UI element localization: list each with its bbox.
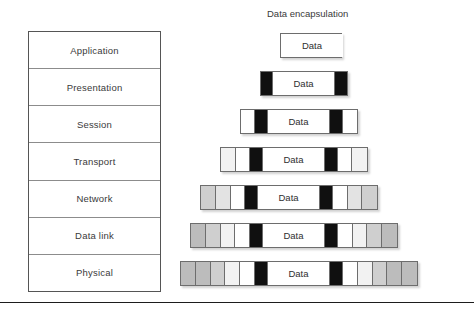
- protocol-header-segment: [335, 72, 347, 95]
- encapsulation-segment: [343, 110, 357, 133]
- data-payload-label: Data: [302, 40, 322, 51]
- encapsulation-row: Data: [200, 185, 378, 210]
- encapsulation-row: Data: [260, 71, 348, 96]
- osi-layer-label: Application: [70, 45, 119, 56]
- encapsulation-segment: [382, 224, 397, 247]
- osi-layer-row: Physical: [29, 255, 160, 291]
- protocol-header-segment: [250, 148, 263, 171]
- protocol-header-segment: [250, 224, 263, 247]
- data-payload-cell: Data: [258, 186, 320, 209]
- protocol-header-segment: [325, 224, 338, 247]
- protocol-header-segment: [320, 186, 333, 209]
- encapsulation-segment: [362, 186, 377, 209]
- encapsulation-row: Data: [280, 33, 342, 58]
- data-payload-label: Data: [288, 268, 308, 279]
- encapsulation-row: Data: [220, 147, 368, 172]
- osi-layer-row: Presentation: [29, 69, 160, 106]
- encapsulation-segment: [206, 224, 221, 247]
- osi-layer-label: Transport: [73, 156, 115, 167]
- encapsulation-segment: [338, 148, 353, 171]
- encapsulation-segment: [231, 186, 246, 209]
- encapsulation-segment: [225, 262, 240, 285]
- protocol-header-segment: [330, 110, 343, 133]
- osi-layer-row: Transport: [29, 143, 160, 180]
- encapsulation-segment: [221, 224, 236, 247]
- osi-layer-table: ApplicationPresentationSessionTransportN…: [28, 31, 161, 292]
- encapsulation-title: Data encapsulation: [267, 8, 348, 19]
- osi-layer-row: Session: [29, 106, 160, 143]
- protocol-header-segment: [255, 110, 268, 133]
- osi-layer-label: Presentation: [67, 82, 123, 93]
- encapsulation-segment: [211, 262, 226, 285]
- encapsulation-segment: [352, 148, 367, 171]
- osi-layer-row: Application: [29, 32, 160, 69]
- protocol-header-segment: [261, 72, 273, 95]
- data-payload-cell: Data: [268, 110, 330, 133]
- protocol-header-segment: [325, 148, 338, 171]
- osi-layer-label: Network: [76, 193, 112, 204]
- encapsulation-segment: [191, 224, 206, 247]
- encapsulation-segment: [181, 262, 196, 285]
- data-payload-label: Data: [294, 78, 314, 89]
- encapsulation-stack: DataDataDataDataDataDataData: [180, 33, 470, 295]
- encapsulation-segment: [373, 262, 388, 285]
- data-payload-cell: Data: [263, 224, 325, 247]
- encapsulation-segment: [201, 186, 216, 209]
- encapsulation-segment: [402, 262, 417, 285]
- data-payload-label: Data: [288, 116, 308, 127]
- encapsulation-segment: [235, 224, 250, 247]
- encapsulation-segment: [358, 262, 373, 285]
- encapsulation-segment: [221, 148, 236, 171]
- encapsulation-segment: [241, 110, 255, 133]
- encapsulation-segment: [333, 186, 348, 209]
- encapsulation-segment: [240, 262, 255, 285]
- encapsulation-segment: [367, 224, 382, 247]
- encapsulation-segment: [348, 186, 363, 209]
- osi-layer-row: Data link: [29, 218, 160, 255]
- encapsulation-row: Data: [240, 109, 358, 134]
- encapsulation-segment: [353, 224, 368, 247]
- encapsulation-segment: [216, 186, 231, 209]
- osi-layer-label: Physical: [76, 267, 113, 278]
- footer-rule: [0, 302, 474, 303]
- osi-layer-label: Data link: [75, 230, 114, 241]
- protocol-header-segment: [330, 262, 343, 285]
- protocol-header-segment: [245, 186, 258, 209]
- data-payload-cell: Data: [273, 72, 335, 95]
- osi-layer-row: Network: [29, 181, 160, 218]
- protocol-header-segment: [255, 262, 268, 285]
- data-payload-cell: Data: [263, 148, 325, 171]
- encapsulation-segment: [196, 262, 211, 285]
- encapsulation-segment: [343, 262, 358, 285]
- data-payload-label: Data: [283, 230, 303, 241]
- data-payload-label: Data: [278, 192, 298, 203]
- encapsulation-segment: [387, 262, 402, 285]
- encapsulation-row: Data: [180, 261, 418, 286]
- data-payload-label: Data: [283, 154, 303, 165]
- encapsulation-segment: [338, 224, 353, 247]
- data-payload-cell: Data: [281, 34, 343, 57]
- encapsulation-segment: [236, 148, 251, 171]
- data-payload-cell: Data: [268, 262, 330, 285]
- encapsulation-row: Data: [190, 223, 398, 248]
- osi-layer-label: Session: [77, 119, 112, 130]
